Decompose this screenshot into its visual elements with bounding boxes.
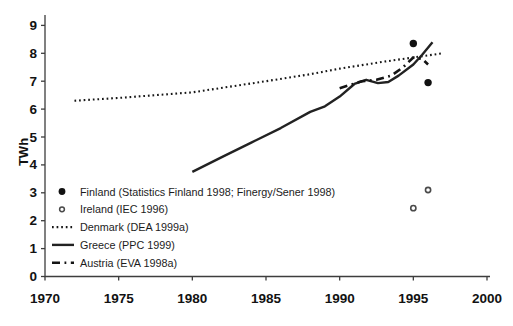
legend-label: Greece (PPC 1999) <box>80 239 175 251</box>
chart-figure: 01234567891970197519801985199019952000 F… <box>0 0 513 326</box>
y-tick-label: 7 <box>29 74 37 89</box>
x-tick-label: 1970 <box>30 291 60 306</box>
series-greece-line <box>192 42 432 172</box>
filled-circle-marker-icon <box>59 188 66 195</box>
legend-label: Denmark (DEA 1999a) <box>80 221 189 233</box>
series-denmark-line <box>74 53 442 100</box>
legend-label: Austria (EVA 1998a) <box>80 257 177 269</box>
legend-item-finland: Finland (Statistics Finland 1998; Finerg… <box>59 186 335 198</box>
series-ireland-point <box>411 206 416 211</box>
legend-label: Ireland (IEC 1996) <box>80 203 168 215</box>
x-tick-label: 1980 <box>177 291 207 306</box>
legend-label: Finland (Statistics Finland 1998; Finerg… <box>80 186 335 198</box>
x-tick-label: 1995 <box>398 291 429 306</box>
y-tick-label: 3 <box>29 185 37 200</box>
legend-item-greece: Greece (PPC 1999) <box>52 239 175 251</box>
x-tick-label: 2000 <box>472 291 502 306</box>
y-tick-label: 8 <box>29 46 37 61</box>
line-chart: 01234567891970197519801985199019952000 F… <box>0 0 513 326</box>
legend-item-ireland: Ireland (IEC 1996) <box>60 203 169 215</box>
series-finland-point <box>424 79 431 86</box>
legend-item-austria: Austria (EVA 1998a) <box>52 257 177 269</box>
y-tick-label: 2 <box>29 213 37 228</box>
y-tick-label: 9 <box>29 18 37 33</box>
y-tick-label: 1 <box>29 241 37 256</box>
series-ireland-point <box>425 187 430 192</box>
y-axis-title: TWh <box>16 138 31 166</box>
open-circle-marker-icon <box>60 207 65 212</box>
legend: Finland (Statistics Finland 1998; Finerg… <box>52 186 335 269</box>
y-tick-label: 0 <box>29 269 37 284</box>
legend-item-denmark: Denmark (DEA 1999a) <box>52 221 189 233</box>
y-tick-label: 6 <box>29 102 37 117</box>
x-tick-label: 1975 <box>104 291 135 306</box>
x-tick-label: 1985 <box>251 291 282 306</box>
x-tick-label: 1990 <box>325 291 355 306</box>
series-finland-point <box>410 40 417 47</box>
